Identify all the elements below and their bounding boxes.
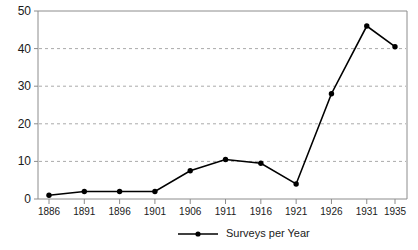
data-point-1891 (82, 189, 87, 194)
data-point-1911 (223, 157, 228, 162)
x-tick-label-1901: 1901 (144, 206, 167, 217)
y-tick-label-10: 10 (18, 154, 32, 168)
data-point-1931 (364, 23, 369, 28)
data-point-1926 (329, 91, 334, 96)
data-point-1921 (293, 181, 298, 186)
data-point-1886 (46, 193, 51, 198)
data-point-1906 (188, 168, 193, 173)
x-tick-label-1921: 1921 (285, 206, 308, 217)
y-tick-label-30: 30 (18, 79, 32, 93)
x-tick-label-1926: 1926 (320, 206, 343, 217)
x-axis-labels: 1886189118961901190619111916192119261931… (38, 206, 407, 217)
legend-label-surveys-per-year: Surveys per Year (226, 227, 310, 239)
y-tick-label-0: 0 (24, 192, 31, 206)
y-tick-label-20: 20 (18, 117, 32, 131)
x-tick-label-1886: 1886 (38, 206, 61, 217)
y-axis-ticks (34, 11, 38, 199)
x-axis-ticks (49, 199, 395, 204)
x-tick-label-1891: 1891 (73, 206, 96, 217)
x-tick-label-1916: 1916 (250, 206, 273, 217)
y-axis-labels: 01020304050 (18, 4, 32, 206)
x-tick-label-1931: 1931 (356, 206, 379, 217)
x-tick-label-1896: 1896 (108, 206, 131, 217)
data-point-1896 (117, 189, 122, 194)
plot-background (38, 11, 407, 199)
y-tick-label-50: 50 (18, 4, 32, 18)
data-point-1935 (392, 44, 397, 49)
x-tick-label-1935: 1935 (384, 206, 407, 217)
x-tick-label-1911: 1911 (215, 206, 237, 217)
surveys-per-year-line-chart: 01020304050 1886189118961901190619111916… (0, 0, 418, 250)
chart-legend: Surveys per Year (178, 227, 310, 239)
data-point-1901 (152, 189, 157, 194)
data-point-1916 (258, 161, 263, 166)
chart-container: 01020304050 1886189118961901190619111916… (0, 0, 418, 250)
x-tick-label-1906: 1906 (179, 206, 202, 217)
legend-marker-sample (195, 231, 200, 236)
y-tick-label-40: 40 (18, 42, 32, 56)
